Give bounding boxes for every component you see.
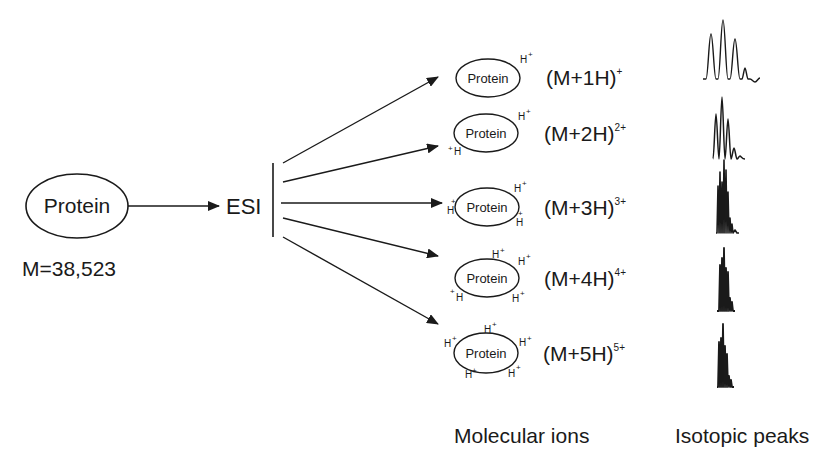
svg-text:H: H [518, 256, 525, 267]
proton-icon: H+ [512, 289, 525, 304]
proton-icon: H+ [484, 320, 497, 335]
proton-icon: H+ [520, 50, 533, 65]
svg-text:H: H [444, 338, 451, 349]
svg-text:+: + [526, 252, 531, 261]
svg-text:+: + [492, 320, 497, 329]
svg-text:H: H [519, 337, 526, 348]
ion-row-5: Protein H+ H+ H+ H+ H+ (M+5H)5+ [444, 320, 625, 380]
isotopic-peaks [703, 20, 760, 387]
proton-icon: H+ [465, 366, 477, 380]
isotopic-peaks-label: Isotopic peaks [675, 424, 809, 447]
proton-icon: H+ [519, 334, 532, 348]
svg-text:+: + [527, 334, 532, 343]
arrow-ion-2 [283, 146, 438, 182]
ion-protein-label: Protein [465, 126, 506, 141]
svg-text:H: H [518, 111, 525, 122]
svg-text:+: + [472, 366, 477, 375]
svg-text:+: + [516, 363, 521, 372]
ion-formula: (M+3H)3+ [544, 196, 626, 219]
proton-icon: H+ [508, 363, 521, 379]
svg-text:H: H [492, 249, 499, 260]
svg-text:+: + [448, 144, 453, 153]
proton-icon: H+ [516, 209, 523, 228]
svg-text:H: H [520, 54, 527, 65]
svg-text:+: + [450, 287, 455, 296]
ion-protein-label: Protein [466, 271, 507, 286]
esi-label: ESI [226, 194, 261, 219]
ion-protein-label: Protein [466, 200, 507, 215]
svg-text:+: + [500, 246, 505, 255]
svg-text:H: H [447, 205, 454, 216]
isotope-spectrum-2 [713, 97, 745, 159]
esi-diagram: Protein M=38,523 ESI Protein H+ (M+1H)+ … [0, 0, 839, 456]
ion-formula: (M+4H)4+ [544, 267, 626, 290]
ion-formula: (M+5H)5+ [543, 342, 625, 365]
proton-icon: H+ [492, 246, 505, 260]
svg-text:H: H [514, 183, 521, 194]
ion-arrows [281, 77, 442, 324]
svg-text:H: H [454, 146, 461, 157]
proton-icon: +H [448, 144, 461, 157]
svg-text:H: H [508, 368, 515, 379]
molecular-ions-label: Molecular ions [454, 424, 589, 447]
ion-protein-label: Protein [465, 346, 506, 361]
isotope-spectrum-1 [703, 20, 760, 82]
ion-row-1: Protein H+ (M+1H)+ [456, 50, 623, 97]
svg-text:+: + [522, 179, 527, 188]
ion-formula: (M+2H)2+ [544, 122, 626, 145]
arrow-ion-1 [283, 77, 438, 163]
proton-icon: H+ [518, 252, 531, 267]
svg-text:H: H [516, 217, 523, 228]
svg-text:+: + [452, 334, 457, 343]
ion-row-2: Protein H+ +H (M+2H)2+ [448, 107, 626, 157]
proton-icon: H+ [518, 107, 531, 122]
protein-mass-label: M=38,523 [22, 257, 116, 280]
ion-row-4: Protein H+ H+ +H H+ (M+4H)4+ [450, 246, 626, 304]
svg-text:H: H [456, 292, 463, 303]
svg-text:+: + [518, 209, 523, 218]
svg-text:+: + [528, 50, 533, 59]
ion-protein-label: Protein [467, 71, 508, 86]
ion-row-3: Protein +H H+ H+ (M+3H)3+ [447, 179, 626, 228]
proton-icon: H+ [514, 179, 527, 194]
ion-formula: (M+1H)+ [546, 66, 623, 89]
source-protein-label: Protein [44, 194, 111, 217]
svg-text:H: H [512, 293, 519, 304]
svg-text:H: H [484, 324, 491, 335]
svg-text:+: + [526, 107, 531, 116]
source-protein: Protein [26, 174, 128, 238]
svg-text:+: + [520, 289, 525, 298]
